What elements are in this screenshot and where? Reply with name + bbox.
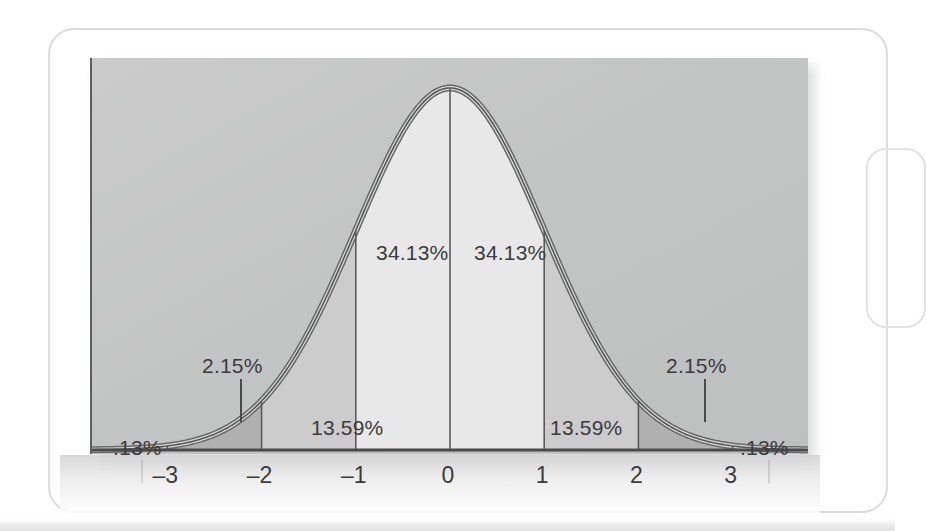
page-bottom-band	[0, 519, 895, 531]
x-tick-label-0: 0	[428, 462, 468, 489]
leader-band-left-215	[240, 379, 242, 422]
x-tick-label-2: 2	[616, 462, 656, 489]
label-band-left-1359: 13.59%	[311, 416, 383, 440]
label-band-right-1359: 13.59%	[550, 416, 622, 440]
label-tail-right-013: .13%	[740, 436, 789, 460]
x-tick-label--2: –2	[240, 462, 280, 489]
label-tail-left-013: .13%	[113, 436, 162, 460]
adjacent-card-sliver	[866, 148, 926, 328]
leader-band-right-215	[704, 379, 706, 422]
label-band-left-215: 2.15%	[202, 354, 263, 378]
distribution-svg	[92, 58, 808, 454]
x-tick-label-3: 3	[711, 462, 751, 489]
leader-tail-right-013	[768, 460, 770, 483]
x-tick-label-1: 1	[522, 462, 562, 489]
label-band-right-215: 2.15%	[666, 354, 727, 378]
label-band-left-3413: 34.13%	[376, 241, 448, 265]
x-tick-label--1: –1	[334, 462, 374, 489]
leader-tail-left-013	[141, 460, 143, 483]
label-band-right-3413: 34.13%	[474, 241, 546, 265]
x-tick-label--3: –3	[145, 462, 185, 489]
normal-distribution-chart: .13% 2.15% 13.59% 34.13% 34.13% 13.59% 2…	[90, 58, 806, 454]
